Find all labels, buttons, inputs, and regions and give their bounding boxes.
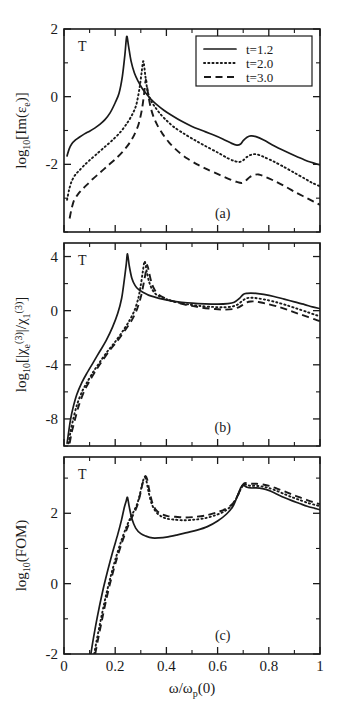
svg-text:log10[|χe(3)|/χ1(3)]: log10[|χe(3)|/χ1(3)] bbox=[13, 297, 32, 392]
panel-label-c: (c) bbox=[215, 628, 231, 644]
temperature-marker-b: T bbox=[78, 253, 87, 268]
multi-panel-line-chart: 20-2(a)T40-4-8(b)T20-2(c)Tlog10[Im(εe)]l… bbox=[0, 0, 338, 723]
ytick-label: -2 bbox=[46, 156, 59, 172]
ytick-label: 2 bbox=[51, 505, 59, 521]
ytick-label: 0 bbox=[51, 303, 59, 319]
ytick-label: 2 bbox=[51, 21, 59, 37]
legend-label-solid: t=1.2 bbox=[246, 42, 273, 57]
xtick-label: 0.2 bbox=[106, 658, 125, 674]
panel-label-a: (a) bbox=[215, 206, 231, 222]
panel-b-series-t30 bbox=[70, 265, 320, 443]
xtick-label: 1 bbox=[316, 658, 324, 674]
panel-b-curves bbox=[67, 254, 320, 443]
x-axis-label: ω/ωp(0) bbox=[169, 680, 215, 699]
panel-c-series-t12 bbox=[91, 485, 320, 654]
ytick-label: 0 bbox=[51, 576, 59, 592]
ytick-label: -8 bbox=[46, 411, 59, 427]
ytick-label: 4 bbox=[51, 249, 59, 265]
ytick-label: 0 bbox=[51, 89, 59, 105]
xtick-label: 0.6 bbox=[208, 658, 227, 674]
panel-c-y-axis-label: log10(FOM) bbox=[13, 520, 32, 592]
panel-c-frame bbox=[64, 457, 320, 654]
temperature-marker-c: T bbox=[78, 467, 87, 482]
panel-a-y-axis-label: log10[Im(εe)] bbox=[13, 92, 32, 169]
xtick-label: 0.4 bbox=[157, 658, 176, 674]
temperature-marker-a: T bbox=[78, 39, 87, 54]
panel-label-b: (b) bbox=[215, 420, 232, 436]
svg-text:log10[Im(εe)]: log10[Im(εe)] bbox=[13, 92, 32, 169]
legend-label-dotted: t=2.0 bbox=[246, 56, 273, 71]
panel-b-series-t20 bbox=[69, 261, 320, 443]
ytick-label: -4 bbox=[46, 357, 59, 373]
figure-container: 20-2(a)T40-4-8(b)T20-2(c)Tlog10[Im(εe)]l… bbox=[0, 0, 338, 723]
svg-text:log10(FOM): log10(FOM) bbox=[13, 520, 32, 592]
panel-c-curves bbox=[91, 476, 320, 654]
panel-b-series-t12 bbox=[67, 254, 320, 443]
legend-label-dashed: t=3.0 bbox=[246, 70, 273, 85]
xtick-label: 0.8 bbox=[259, 658, 278, 674]
panel-b-y-axis-label: log10[|χe(3)|/χ1(3)] bbox=[13, 297, 32, 392]
ytick-label: -2 bbox=[46, 646, 59, 662]
xtick-label: 0 bbox=[60, 658, 68, 674]
panel-b-frame bbox=[64, 243, 320, 446]
